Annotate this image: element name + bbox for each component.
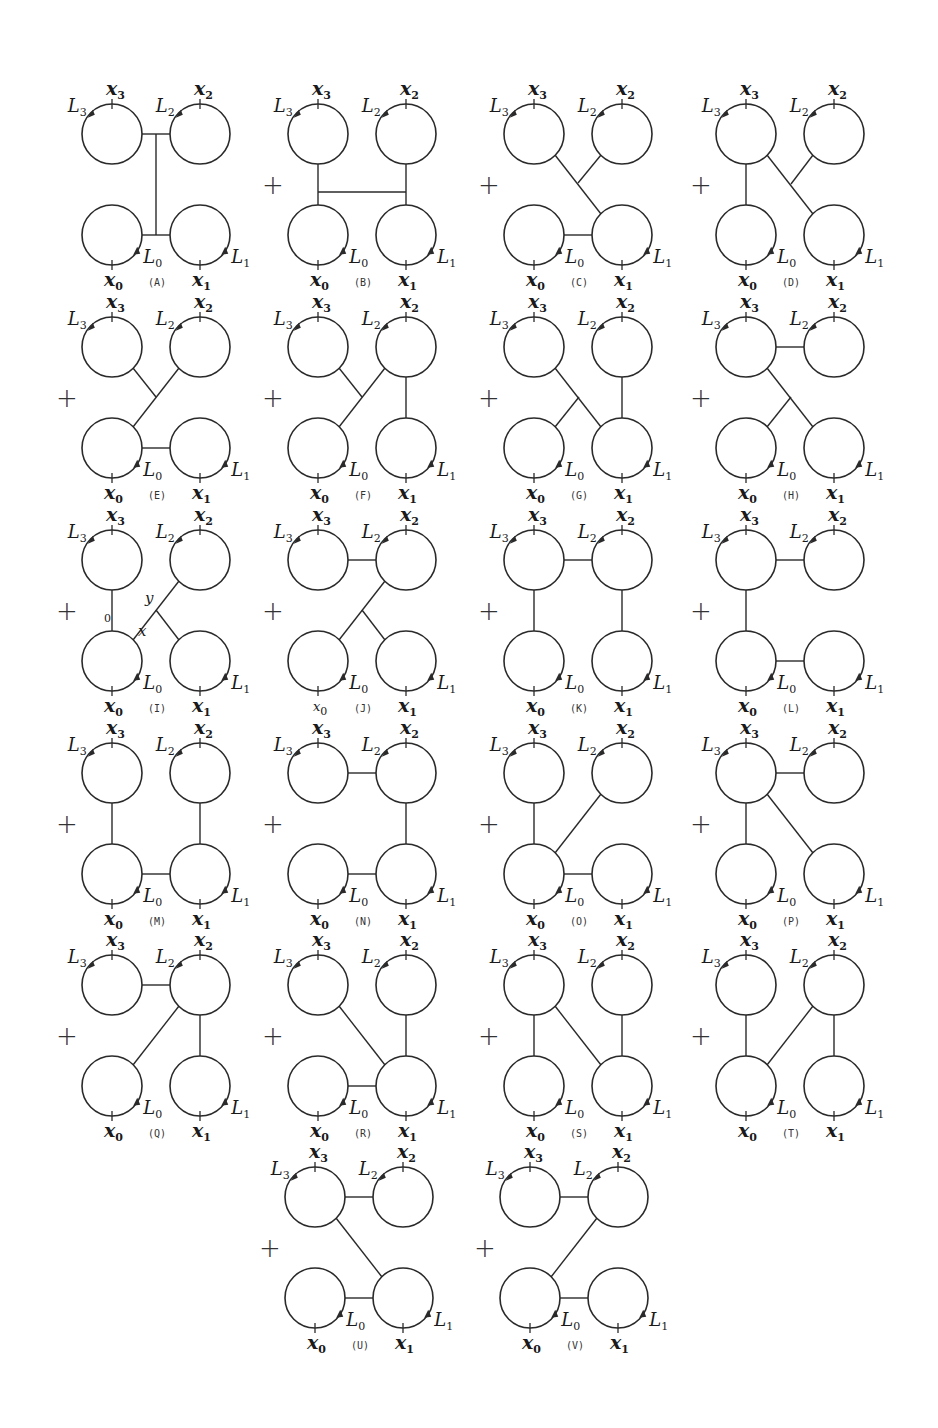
point-label-x0: x0 bbox=[103, 1119, 123, 1144]
loop-label-L2: L2 bbox=[577, 946, 597, 970]
loop-circle-0 bbox=[82, 631, 142, 691]
plus-operator: + bbox=[478, 383, 500, 413]
loop-circle-0 bbox=[288, 205, 348, 265]
loop-label-L0: L0 bbox=[776, 246, 796, 270]
loop-label-L0: L0 bbox=[776, 672, 796, 696]
propagator-line bbox=[555, 397, 579, 427]
loop-label-L3: L3 bbox=[489, 95, 509, 119]
panel-label: (B) bbox=[354, 277, 372, 288]
loop-label-L1: L1 bbox=[230, 672, 250, 696]
loop-label-L3: L3 bbox=[273, 734, 293, 758]
propagator-line bbox=[133, 368, 156, 397]
diagram-panel-j: +x3L3x2L2x0L0x1L1(J) bbox=[262, 503, 456, 719]
panel-label: (O) bbox=[570, 916, 588, 927]
loop-circle-1 bbox=[373, 1268, 433, 1328]
loop-circle-1 bbox=[592, 1056, 652, 1116]
plus-operator: + bbox=[259, 1233, 281, 1263]
loop-label-L0: L0 bbox=[564, 1097, 584, 1121]
loop-circle-0 bbox=[82, 1056, 142, 1116]
loop-label-L0: L0 bbox=[142, 1097, 162, 1121]
diagram-panel-n: +x3L3x2L2x0L0x1L1(N) bbox=[262, 716, 456, 932]
loop-label-L0: L0 bbox=[142, 885, 162, 909]
plus-operator: + bbox=[478, 596, 500, 626]
loop-circle-0 bbox=[504, 631, 564, 691]
point-label-x2: x2 bbox=[193, 77, 213, 102]
loop-label-L0: L0 bbox=[564, 672, 584, 696]
point-label-x0: x0 bbox=[521, 1331, 541, 1356]
plus-operator: + bbox=[478, 170, 500, 200]
point-label-x2: x2 bbox=[193, 503, 213, 528]
plus-operator: + bbox=[56, 1021, 78, 1051]
propagator-line bbox=[767, 794, 813, 853]
plus-operator: + bbox=[56, 809, 78, 839]
loop-label-L2: L2 bbox=[155, 521, 175, 545]
point-label-x2: x2 bbox=[399, 503, 419, 528]
loop-label-L2: L2 bbox=[573, 1158, 593, 1182]
diagram-panel-h: +x3L3x2L2x0L0x1L1(H) bbox=[690, 290, 884, 506]
diagram-panel-l: +x3L3x2L2x0L0x1L1(L) bbox=[690, 503, 884, 719]
plus-operator: + bbox=[478, 1021, 500, 1051]
propagator-line bbox=[767, 397, 791, 427]
point-label-x2: x2 bbox=[827, 503, 847, 528]
loop-circle-1 bbox=[804, 844, 864, 904]
point-label-x0: x0 bbox=[737, 1119, 757, 1144]
loop-label-L2: L2 bbox=[361, 521, 381, 545]
loop-label-L1: L1 bbox=[652, 1097, 672, 1121]
point-label-x2: x2 bbox=[615, 503, 635, 528]
loop-circle-1 bbox=[588, 1268, 648, 1328]
plus-operator: + bbox=[690, 170, 712, 200]
loop-label-L2: L2 bbox=[155, 946, 175, 970]
point-label-x3: x3 bbox=[311, 77, 331, 102]
loop-label-L0: L0 bbox=[348, 459, 368, 483]
loop-label-L1: L1 bbox=[436, 246, 456, 270]
loop-label-L1: L1 bbox=[864, 246, 884, 270]
loop-label-L1: L1 bbox=[230, 1097, 250, 1121]
loop-circle-1 bbox=[804, 1056, 864, 1116]
loop-label-L3: L3 bbox=[67, 946, 87, 970]
point-label-x3: x3 bbox=[739, 503, 759, 528]
plus-operator: + bbox=[690, 1021, 712, 1051]
point-label-x3: x3 bbox=[527, 290, 547, 315]
diagram-panel-v: +x3L3x2L2x0L0x1L1(V) bbox=[474, 1140, 668, 1356]
loop-circle-0 bbox=[288, 844, 348, 904]
plus-operator: + bbox=[262, 383, 284, 413]
loop-label-L2: L2 bbox=[358, 1158, 378, 1182]
loop-label-L1: L1 bbox=[864, 1097, 884, 1121]
loop-circle-0 bbox=[500, 1268, 560, 1328]
plus-operator: + bbox=[56, 596, 78, 626]
diagram-panel-a: x3L3x2L2x0L0x1L1(A) bbox=[67, 77, 250, 293]
loop-label-L3: L3 bbox=[67, 95, 87, 119]
loop-circle-1 bbox=[170, 205, 230, 265]
loop-circle-0 bbox=[504, 418, 564, 478]
loop-label-L3: L3 bbox=[485, 1158, 505, 1182]
diagram-canvas: x3L3x2L2x0L0x1L1(A)+x3L3x2L2x0L0x1L1(B)+… bbox=[0, 0, 938, 1428]
loop-label-L1: L1 bbox=[436, 672, 456, 696]
point-label-x3: x3 bbox=[527, 77, 547, 102]
loop-circle-0 bbox=[504, 205, 564, 265]
loop-circle-0 bbox=[288, 631, 348, 691]
propagator-line bbox=[156, 610, 179, 640]
loop-circle-1 bbox=[170, 418, 230, 478]
plus-operator: + bbox=[690, 383, 712, 413]
loop-label-L2: L2 bbox=[577, 308, 597, 332]
panel-label: (R) bbox=[354, 1128, 372, 1139]
loop-circle-0 bbox=[716, 418, 776, 478]
loop-circle-0 bbox=[288, 418, 348, 478]
loop-circle-0 bbox=[82, 205, 142, 265]
loop-label-L2: L2 bbox=[155, 95, 175, 119]
loop-label-L1: L1 bbox=[652, 246, 672, 270]
loop-label-L3: L3 bbox=[270, 1158, 290, 1182]
loop-label-L2: L2 bbox=[789, 946, 809, 970]
panel-label: (M) bbox=[148, 916, 166, 927]
loop-label-L1: L1 bbox=[230, 885, 250, 909]
plus-operator: + bbox=[262, 1021, 284, 1051]
diagram-panel-c: +x3L3x2L2x0L0x1L1(C) bbox=[478, 77, 672, 293]
point-label-x2: x2 bbox=[827, 716, 847, 741]
loop-label-L3: L3 bbox=[489, 521, 509, 545]
diagram-panel-b: +x3L3x2L2x0L0x1L1(B) bbox=[262, 77, 456, 293]
propagator-line bbox=[767, 1006, 813, 1065]
vertex-annotation: y bbox=[144, 589, 154, 607]
loop-label-L3: L3 bbox=[701, 734, 721, 758]
point-label-x3: x3 bbox=[311, 290, 331, 315]
loop-label-L2: L2 bbox=[789, 734, 809, 758]
